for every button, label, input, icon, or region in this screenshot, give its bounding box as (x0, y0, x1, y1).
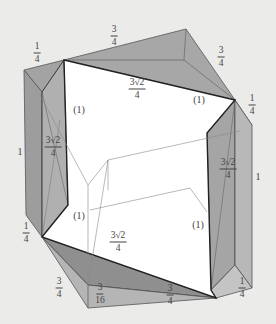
label-top-right-three-quarter: 34 (218, 45, 225, 68)
label-bottom-left-three-quarter: 34 (56, 276, 63, 299)
label-hex-bottom-edge: 3√24 (110, 230, 127, 253)
label-top-left-quarter: 14 (34, 41, 41, 64)
label-hex-right-edge: 3√24 (220, 157, 237, 180)
label-right-quarter: 14 (249, 93, 256, 116)
label-top-three-quarter: 34 (111, 24, 118, 47)
label-left-lower-quarter: 14 (23, 221, 30, 244)
diagram-canvas: 14 34 34 14 3√24 3√24 3√24 3√24 1 1 14 3… (0, 0, 276, 324)
label-bottom-three-quarter: 34 (167, 283, 174, 306)
label-bottom-three-sixteenth: 316 (95, 282, 105, 305)
label-bottom-right-quarter: 14 (239, 276, 246, 299)
right-outer-face (235, 100, 252, 288)
label-unit-lower-left: (1) (73, 211, 85, 221)
label-unit-upper-left: (1) (73, 105, 85, 115)
label-unit-upper-right: (1) (193, 95, 205, 105)
label-hex-left-edge: 3√24 (45, 135, 62, 158)
label-unit-lower-right: (1) (192, 220, 204, 230)
left-outer-face (24, 70, 42, 237)
label-left-side-one: 1 (18, 147, 23, 157)
label-right-side-one: 1 (256, 172, 261, 182)
label-hex-top-edge: 3√24 (129, 77, 146, 100)
